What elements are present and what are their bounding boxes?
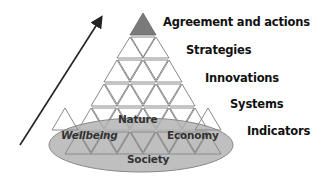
level-label-agreement: Agreement and actions <box>163 15 310 29</box>
dimension-label-nature: Nature <box>118 113 157 125</box>
dimension-label-society: Society <box>127 153 169 165</box>
dimension-label-wellbeing: Wellbeing <box>61 129 118 141</box>
level-label-strategies: Strategies <box>186 43 251 57</box>
level-label-indicators: Indicators <box>247 124 310 138</box>
dimension-label-economy: Economy <box>167 129 219 141</box>
apex-triangle <box>130 13 156 35</box>
level-label-systems: Systems <box>230 97 283 111</box>
level-label-innovations: Innovations <box>205 71 279 85</box>
